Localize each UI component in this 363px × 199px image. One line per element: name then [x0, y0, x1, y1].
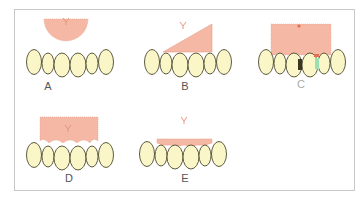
frenum-mark-icon	[180, 22, 186, 29]
panel-d	[27, 117, 114, 170]
panel-e	[140, 117, 227, 169]
dark-defect-mark	[298, 59, 302, 70]
graft-triangle	[163, 24, 212, 52]
panel-b-label: B	[175, 80, 195, 92]
dental-diagram: C	[0, 0, 363, 199]
teeth-row	[145, 50, 232, 78]
panel-a	[27, 18, 114, 77]
panel-a-label: A	[38, 80, 58, 92]
panel-b	[145, 22, 232, 77]
green-defect-mark	[315, 58, 319, 69]
panel-c: C	[259, 24, 346, 90]
panel-d-label: D	[59, 172, 79, 184]
graft-rectangle	[271, 24, 331, 55]
teeth-row	[140, 142, 227, 170]
panel-c-label: C	[297, 78, 305, 90]
teeth-row	[27, 50, 114, 78]
teeth-row	[27, 143, 114, 171]
frenum-mark-icon	[181, 117, 187, 124]
panel-e-label: E	[175, 172, 195, 184]
frenum-mark-icon	[297, 24, 300, 27]
graft-scalloped	[40, 117, 98, 143]
